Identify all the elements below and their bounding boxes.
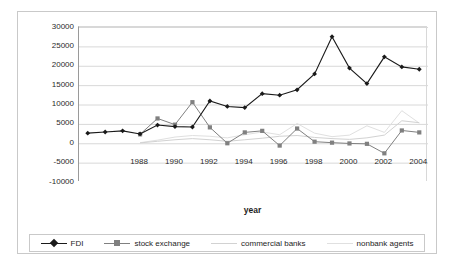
x-axis-title: year (78, 205, 427, 215)
x-tick-label: 2004 (403, 157, 433, 166)
chart-figure: 300002500020000150001000050000-5000-1000… (0, 0, 454, 267)
legend-swatch-icon (41, 239, 67, 248)
legend-marker-square-icon (114, 240, 120, 246)
legend-swatch-icon (327, 239, 353, 248)
legend-line (327, 243, 353, 244)
x-tick-label: 1990 (159, 157, 189, 166)
legend-label: stock exchange (134, 239, 190, 248)
legend-entry-commercial-banks[interactable]: commercial banks (201, 239, 317, 248)
legend-entry-fdi[interactable]: FDI (30, 239, 94, 248)
legend-line (211, 243, 237, 244)
legend-marker-diamond-icon (49, 238, 57, 246)
x-tick-label: 1988 (124, 157, 154, 166)
legend-label: nonbank agents (357, 239, 414, 248)
legend-entry-nonbank-agents[interactable]: nonbank agents (316, 239, 424, 248)
legend-swatch-icon (104, 239, 130, 248)
x-tick-label: 2002 (368, 157, 398, 166)
chart-legend: FDIstock exchangecommercial banksnonbank… (29, 234, 425, 252)
legend-swatch-icon (211, 239, 237, 248)
x-tick-label: 1998 (299, 157, 329, 166)
x-tick-label: 1992 (194, 157, 224, 166)
legend-label: commercial banks (241, 239, 305, 248)
x-tick-label: 1996 (264, 157, 294, 166)
x-tick-label: 2000 (333, 157, 363, 166)
x-tick-label: 1994 (229, 157, 259, 166)
x-axis-tick-labels: 198819901992199419961998200020022004 (0, 0, 454, 267)
legend-entry-stock-exchange[interactable]: stock exchange (94, 239, 201, 248)
legend-label: FDI (71, 239, 84, 248)
